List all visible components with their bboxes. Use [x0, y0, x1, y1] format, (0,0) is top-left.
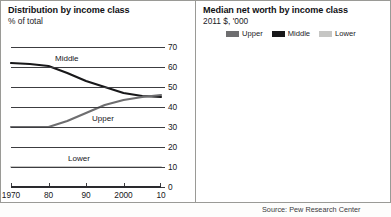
y-axis-tick-label: 0 — [168, 183, 173, 191]
y-tick — [161, 87, 165, 88]
source-note: Source: Pew Research Center — [262, 205, 391, 216]
y-tick — [161, 167, 165, 168]
right-chart-title: Median net worth by income class — [203, 5, 386, 16]
left-panel-header: Distribution by income class % of total — [8, 5, 191, 27]
right-panel-header: Median net worth by income class 2011 $,… — [203, 5, 386, 27]
x-tick — [160, 183, 161, 186]
y-tick — [161, 67, 165, 68]
x-axis-tick-label: 80 — [29, 191, 69, 200]
gridline — [11, 187, 161, 188]
gridline — [11, 107, 161, 108]
gridline — [11, 167, 161, 168]
right-chart-legend: UpperMiddleLower — [226, 30, 356, 38]
legend-item-upper[interactable]: Upper — [226, 30, 263, 38]
gridline — [11, 127, 161, 128]
legend-swatch-middle — [272, 31, 285, 37]
gridline — [11, 147, 161, 148]
figure-root: Distribution by income class % of total … — [0, 0, 391, 217]
gridline — [11, 47, 161, 48]
left-plot-area: 010203040506070 19708090200010 Middle Up… — [11, 47, 161, 187]
left-chart-panel: Distribution by income class % of total … — [0, 0, 196, 203]
legend-label-upper: Upper — [242, 30, 263, 38]
y-axis-tick-label: 30 — [168, 123, 177, 131]
y-axis-tick-label: 70 — [168, 43, 177, 51]
x-axis-tick-label: 10 — [141, 191, 181, 200]
left-chart-subtitle: % of total — [8, 16, 191, 27]
x-axis-tick-label: 1970 — [0, 191, 31, 200]
left-chart-title: Distribution by income class — [8, 5, 191, 16]
x-tick — [86, 183, 87, 186]
x-axis-tick-label: 90 — [66, 191, 106, 200]
left-series-lines — [11, 47, 161, 187]
right-chart-subtitle: 2011 $, '000 — [203, 16, 386, 27]
y-tick — [161, 147, 165, 148]
series-label-lower: Lower — [68, 155, 90, 163]
line-series-middle — [11, 63, 161, 97]
x-axis-tick-label: 2000 — [104, 191, 144, 200]
y-tick — [161, 107, 165, 108]
x-tick — [11, 183, 12, 186]
legend-swatch-lower — [319, 31, 332, 37]
y-axis-tick-label: 20 — [168, 143, 177, 151]
right-chart-panel: Median net worth by income class 2011 $,… — [195, 0, 391, 203]
legend-label-middle: Middle — [288, 30, 310, 38]
series-label-middle: Middle — [55, 55, 79, 63]
gridline — [11, 67, 161, 68]
y-axis-tick-label: 60 — [168, 63, 177, 71]
y-tick — [161, 47, 165, 48]
series-label-upper: Upper — [92, 115, 114, 123]
y-axis-tick-label: 40 — [168, 103, 177, 111]
line-series-upper — [11, 95, 161, 127]
legend-swatch-upper — [226, 31, 239, 37]
legend-item-middle[interactable]: Middle — [272, 30, 310, 38]
gridline — [11, 87, 161, 88]
y-axis-tick-label: 10 — [168, 163, 177, 171]
y-tick — [161, 127, 165, 128]
legend-item-lower[interactable]: Lower — [319, 30, 356, 38]
legend-label-lower: Lower — [335, 30, 356, 38]
x-tick — [124, 183, 125, 186]
y-tick — [161, 187, 165, 188]
x-tick — [49, 183, 50, 186]
y-axis-tick-label: 50 — [168, 83, 177, 91]
